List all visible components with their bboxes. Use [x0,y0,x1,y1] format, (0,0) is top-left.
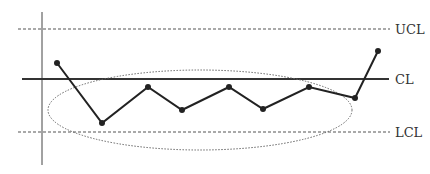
control-chart: UCL CL LCL [0,0,430,174]
data-point [99,120,105,126]
highlight-ellipse [48,70,352,150]
data-point [352,95,358,101]
data-points [54,48,381,126]
data-point [260,106,266,112]
data-series-line [57,51,378,123]
cl-label: CL [395,72,414,87]
data-point [375,48,381,54]
data-point [145,84,151,90]
data-point [54,60,60,66]
data-point [306,84,312,90]
lcl-label: LCL [395,125,423,140]
ucl-label: UCL [395,22,425,37]
data-point [179,107,185,113]
data-point [226,84,232,90]
